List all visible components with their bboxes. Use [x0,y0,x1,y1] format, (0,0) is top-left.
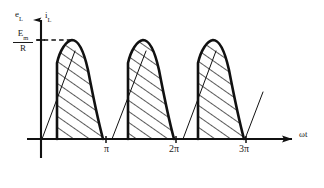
rectifier-waveform-figure: eL iL Em R π 2π 3π ωt [0,0,324,188]
x-axis-tick-label-3pi: 3π [239,144,249,154]
fraction-denominator: R [10,43,36,54]
fraction-numerator: Em [10,28,36,42]
y-axis-label-current: iL [45,11,52,22]
x-axis-tick-label-2pi: 2π [169,144,179,154]
y-axis-label-voltage: eL [15,10,23,21]
x-axis-label-omega-t: ωt [299,130,307,139]
y-axis-level-label-em-over-r: Em R [10,28,36,54]
waveform-plot [0,0,324,188]
x-axis-tick-label-pi: π [104,144,109,154]
